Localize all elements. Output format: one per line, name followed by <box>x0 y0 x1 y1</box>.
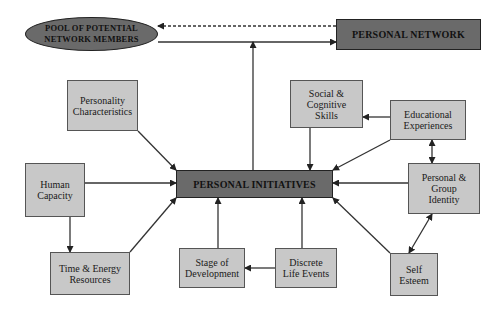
node-educational: Educational Experiences <box>390 100 466 140</box>
node-identity: Personal & Group Identity <box>408 163 480 214</box>
node-personal-initiatives-label: PERSONAL INITIATIVES <box>193 179 315 190</box>
node-social-cognitive: Social & Cognitive Skills <box>290 80 363 128</box>
edge-identity-esteem <box>409 214 432 253</box>
node-educational-label: Educational Experiences <box>404 109 453 131</box>
edge-edu-initiatives <box>333 140 390 170</box>
node-personal-initiatives: PERSONAL INITIATIVES <box>176 170 333 198</box>
edge-personality <box>138 131 176 170</box>
node-life-events-label: Discrete Life Events <box>283 257 329 279</box>
node-human-capacity-label: Human Capacity <box>37 179 73 201</box>
node-personal-network-label: PERSONAL NETWORK <box>352 29 465 40</box>
network-diagram: POOL OF POTENTIAL NETWORK MEMBERS PERSON… <box>0 0 501 315</box>
node-identity-label: Personal & Group Identity <box>422 172 467 205</box>
node-social-cognitive-label: Social & Cognitive Skills <box>307 88 346 121</box>
node-personality-label: Personality Characteristics <box>73 95 132 117</box>
node-time-energy: Time & Energy Resources <box>50 252 130 295</box>
node-self-esteem-label: Self Esteem <box>399 264 428 286</box>
node-life-events: Discrete Life Events <box>275 248 337 288</box>
node-stage-label: Stage of Development <box>185 257 239 279</box>
node-stage: Stage of Development <box>179 248 245 288</box>
node-personality: Personality Characteristics <box>67 80 138 131</box>
edge-esteem <box>333 198 390 253</box>
edge-time <box>130 198 176 252</box>
node-pool-label: POOL OF POTENTIAL NETWORK MEMBERS <box>44 23 138 45</box>
node-pool: POOL OF POTENTIAL NETWORK MEMBERS <box>25 17 158 51</box>
node-personal-network: PERSONAL NETWORK <box>336 19 481 50</box>
node-self-esteem: Self Esteem <box>390 253 438 296</box>
node-time-energy-label: Time & Energy Resources <box>59 263 121 285</box>
node-human-capacity: Human Capacity <box>25 163 85 217</box>
